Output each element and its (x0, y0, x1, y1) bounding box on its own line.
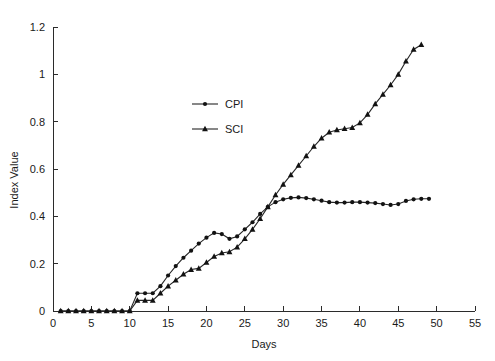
x-tick-label: 20 (200, 317, 212, 329)
x-tick-label: 40 (354, 317, 366, 329)
x-tick-label: 55 (469, 317, 481, 329)
x-tick-label: 5 (88, 317, 94, 329)
data-point-marker (158, 284, 162, 288)
y-axis-label: Index Value (8, 151, 20, 208)
x-tick-label: 25 (239, 317, 251, 329)
data-point-marker (204, 236, 208, 240)
data-point-marker (143, 291, 147, 295)
series-line-cpi (61, 197, 429, 311)
y-tick-label: 0 (39, 305, 45, 317)
legend-item-sci: SCI (192, 123, 243, 135)
data-point-marker (196, 265, 202, 271)
data-point-marker (381, 202, 385, 206)
legend-label: CPI (225, 98, 243, 110)
data-point-marker (404, 199, 408, 203)
data-point-marker (327, 200, 331, 204)
y-tick-label: 0.6 (30, 163, 45, 175)
data-point-marker (312, 197, 316, 201)
data-point-marker (304, 196, 308, 200)
data-point-marker (342, 201, 346, 205)
data-point-marker (212, 231, 216, 235)
data-point-marker (235, 234, 239, 238)
x-tick-label: 35 (315, 317, 327, 329)
data-point-marker (350, 200, 354, 204)
data-point-marker (396, 202, 400, 206)
x-tick-label: 30 (277, 317, 289, 329)
data-point-marker (319, 199, 323, 203)
data-point-marker (189, 249, 193, 253)
data-point-marker (227, 237, 231, 241)
series-group (58, 42, 431, 314)
data-point-marker (358, 200, 362, 204)
y-tick-label: 1.2 (30, 21, 45, 33)
x-tick-label: 50 (431, 317, 443, 329)
legend-label: SCI (225, 123, 243, 135)
data-point-marker (204, 259, 210, 265)
data-point-marker (411, 46, 417, 52)
x-tick-label: 45 (392, 317, 404, 329)
data-point-marker (135, 291, 139, 295)
data-point-marker (220, 232, 224, 236)
chart-container: 0510152025303540455055 00.20.40.60.811.2… (0, 0, 495, 361)
series-line-sci (61, 45, 422, 311)
series-sci (58, 42, 425, 314)
x-tick-label: 0 (50, 317, 56, 329)
data-point-marker (250, 220, 254, 224)
data-point-marker (173, 277, 179, 283)
series-cpi (59, 195, 431, 313)
data-point-marker (181, 256, 185, 260)
legend-item-cpi: CPI (192, 98, 243, 110)
data-point-marker (349, 124, 355, 130)
line-chart: 0510152025303540455055 00.20.40.60.811.2… (0, 0, 495, 361)
data-point-marker (273, 200, 277, 204)
y-tick-label: 0.4 (30, 210, 45, 222)
x-axis-label: Days (251, 338, 277, 350)
data-point-marker (427, 197, 431, 201)
data-point-marker (319, 135, 325, 141)
data-point-marker (289, 196, 293, 200)
x-tick-label: 15 (162, 317, 174, 329)
data-point-marker (335, 201, 339, 205)
y-tick-label: 0.8 (30, 116, 45, 128)
data-point-marker (389, 203, 393, 207)
data-point-marker (165, 283, 171, 289)
data-point-marker (395, 71, 401, 77)
chart-legend: CPISCI (192, 98, 243, 135)
data-point-marker (418, 42, 424, 48)
y-tick-label: 0.2 (30, 258, 45, 270)
data-point-marker (166, 273, 170, 277)
data-point-marker (373, 201, 377, 205)
data-point-marker (281, 197, 285, 201)
axes-group (53, 27, 475, 311)
data-point-marker (197, 241, 201, 245)
data-point-marker (227, 249, 233, 255)
data-point-marker (419, 197, 423, 201)
data-point-marker (174, 264, 178, 268)
y-tick-label: 1 (39, 68, 45, 80)
y-axis-ticks: 00.20.40.60.811.2 (30, 21, 58, 317)
data-point-marker (412, 197, 416, 201)
data-point-marker (151, 291, 155, 295)
data-point-marker (203, 102, 207, 106)
data-point-marker (180, 271, 186, 277)
data-point-marker (296, 195, 300, 199)
x-tick-label: 10 (124, 317, 136, 329)
data-point-marker (243, 227, 247, 231)
data-point-marker (365, 201, 369, 205)
